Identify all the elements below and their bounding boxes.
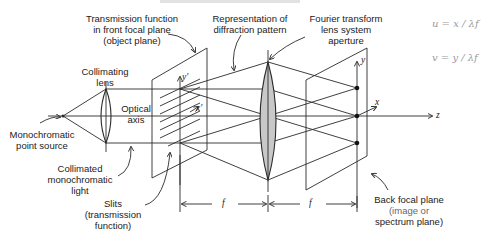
text-line: lens system xyxy=(301,24,391,35)
label-slits: Slits (transmission function) xyxy=(78,198,148,231)
text-line: Collimating xyxy=(70,66,140,77)
text-line: Collimated xyxy=(40,163,120,174)
text-line: in front focal plane xyxy=(72,24,192,35)
spectrum-dot xyxy=(355,141,360,146)
text-line: Optical xyxy=(116,103,156,114)
spectrum-dot xyxy=(355,86,360,91)
text-line: Monochromatic xyxy=(0,129,84,140)
spectrum-dot xyxy=(355,114,360,119)
axis-label-z: z xyxy=(436,110,440,121)
label-transmission-function: Transmission function in front focal pla… xyxy=(72,13,192,46)
text-line: axis xyxy=(116,114,156,125)
label-fourier-lens: Fourier transform lens system aperture xyxy=(301,13,391,46)
label-collimated-light: Collimated monochromatic light xyxy=(40,163,120,196)
back-focal-plane xyxy=(306,48,367,190)
label-collimating-lens: Collimating lens xyxy=(70,66,140,88)
label-back-focal-plane: Back focal plane (image or spectrum plan… xyxy=(364,194,454,227)
focal-length-label-1: f xyxy=(222,198,225,209)
text-line: (image or xyxy=(364,205,454,216)
handwritten-v-equation: v = y / λf xyxy=(432,52,478,63)
text-line: Representation of xyxy=(200,13,300,24)
axis-label-x: x xyxy=(375,97,379,108)
handwritten-u-equation: u = x / λf xyxy=(432,18,479,29)
axis-label-x-prime: x' xyxy=(196,103,202,114)
text-line: (object plane) xyxy=(72,35,192,46)
label-point-source: Monochromatic point source xyxy=(0,129,84,151)
focal-length-label-2: f xyxy=(309,198,312,209)
label-optical-axis: Optical axis xyxy=(116,103,156,125)
text-line: diffraction pattern xyxy=(200,24,300,35)
label-representation: Representation of diffraction pattern xyxy=(200,13,300,35)
text-line: Fourier transform xyxy=(301,13,391,24)
text-line: function) xyxy=(78,220,148,231)
text-line: monochromatic xyxy=(40,174,120,185)
text-line: Transmission function xyxy=(72,13,192,24)
text-line: light xyxy=(40,185,120,196)
text-line: spectrum plane) xyxy=(364,216,454,227)
text-line: lens xyxy=(70,77,140,88)
axis-label-y-prime: y' xyxy=(182,72,188,83)
text-line: aperture xyxy=(301,35,391,46)
axis-label-y: y xyxy=(361,55,365,66)
text-line: (transmission xyxy=(78,209,148,220)
text-line: point source xyxy=(0,140,84,151)
text-line: Back focal plane xyxy=(364,194,454,205)
text-line: Slits xyxy=(78,198,148,209)
